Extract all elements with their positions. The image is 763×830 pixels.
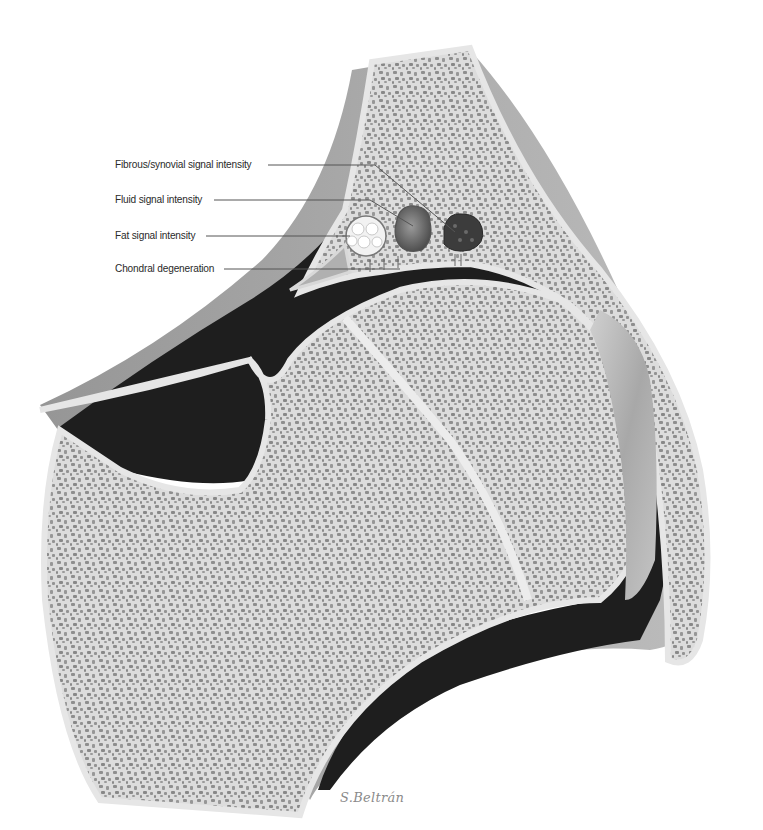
label-chondral-degeneration: Chondral degeneration: [115, 262, 214, 274]
hip-joint-illustration: [0, 0, 763, 830]
label-fibrous-synovial: Fibrous/synovial signal intensity: [115, 158, 252, 170]
label-fat: Fat signal intensity: [115, 229, 195, 241]
artist-signature: S.Beltrán: [340, 790, 404, 805]
fat-lesion: [346, 216, 386, 256]
fluid-lesion: [395, 206, 431, 251]
label-fluid: Fluid signal intensity: [115, 193, 202, 205]
fibrous-lesion: [444, 214, 483, 251]
